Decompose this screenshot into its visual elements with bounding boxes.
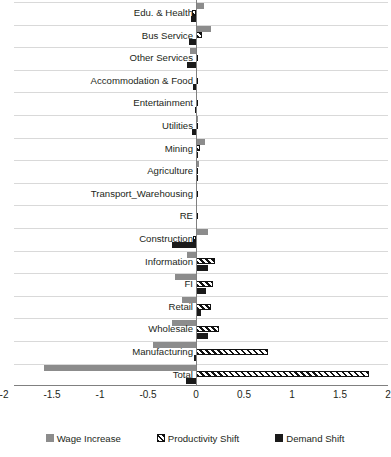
zero-line — [196, 0, 197, 385]
legend-item: Productivity Shift — [157, 433, 239, 444]
x-tick-label: -1 — [96, 389, 105, 400]
x-tick-label: -1.5 — [43, 389, 60, 400]
black-square-icon — [275, 434, 283, 442]
plot-area: Edu. & HealthBus ServiceOther ServicesAc… — [0, 0, 390, 385]
zero-axis-line — [0, 0, 390, 385]
legend-label: Productivity Shift — [168, 433, 239, 444]
legend-item: Wage Increase — [46, 433, 121, 444]
x-tick-label: -0.5 — [139, 389, 156, 400]
x-tick-label: 2 — [385, 389, 391, 400]
x-axis-line — [14, 385, 388, 386]
gray-square-icon — [46, 434, 54, 442]
hatched-square-icon — [157, 434, 165, 442]
x-tick-label: -2 — [0, 389, 8, 400]
x-tick-label: 0.5 — [237, 389, 251, 400]
legend-label: Wage Increase — [57, 433, 121, 444]
legend-label: Demand Shift — [286, 433, 344, 444]
x-axis: -2-1.5-1-0.500.511.52 — [0, 385, 390, 409]
chart-legend: Wage IncreaseProductivity ShiftDemand Sh… — [0, 428, 390, 448]
x-tick-label: 1 — [289, 389, 295, 400]
x-tick-label: 0 — [193, 389, 199, 400]
x-tick-label: 1.5 — [333, 389, 347, 400]
legend-item: Demand Shift — [275, 433, 344, 444]
